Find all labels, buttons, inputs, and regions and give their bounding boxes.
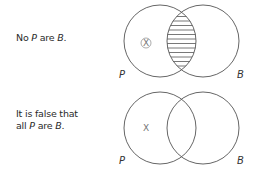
x-marker: X <box>143 123 149 133</box>
venn-diagrams: X P B X P B <box>0 0 255 172</box>
venn-diagram-2: X P B <box>119 92 244 166</box>
circle-b <box>167 92 239 164</box>
shaded-intersection <box>165 17 200 67</box>
circle-p <box>124 92 196 164</box>
x-marker: X <box>143 38 149 48</box>
venn-diagram-1: X P B <box>119 5 244 80</box>
circle-b <box>167 5 239 77</box>
label-p: P <box>119 155 126 166</box>
label-b: B <box>237 69 244 80</box>
label-b: B <box>237 155 244 166</box>
label-p: P <box>119 69 126 80</box>
circle-p <box>124 5 196 77</box>
